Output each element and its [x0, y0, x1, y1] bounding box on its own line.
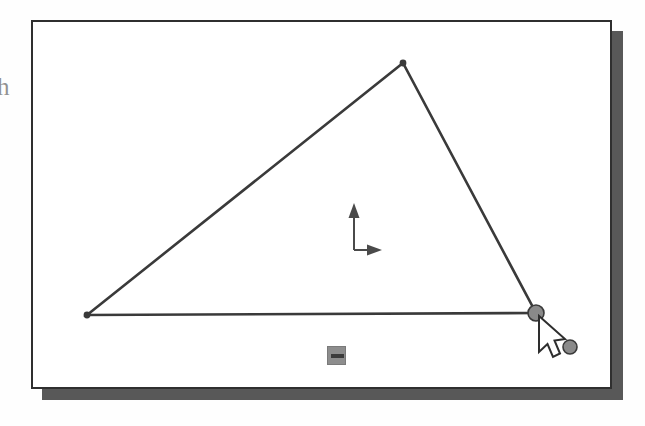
vertex-handle-left[interactable] — [84, 312, 91, 319]
vertex-handle-apex[interactable] — [400, 60, 407, 67]
figure-root: h — [0, 0, 645, 426]
drawing-area[interactable] — [33, 22, 610, 387]
loose-control-point-handle[interactable] — [563, 340, 577, 354]
arrow-cursor-icon — [539, 316, 565, 357]
canvas-vector-layer — [33, 22, 610, 387]
mouse-pointer-cursor — [539, 316, 565, 357]
constraint-marker[interactable] — [327, 346, 346, 365]
drawing-canvas-window[interactable] — [31, 20, 612, 389]
constraint-marker-bar-icon — [331, 354, 344, 358]
triangle-shape[interactable] — [87, 63, 536, 315]
y-axis-arrowhead-icon — [349, 203, 360, 218]
page-margin-glyph: h — [0, 72, 11, 102]
axis-origin-gizmo — [349, 203, 383, 256]
triangle-outline[interactable] — [87, 63, 536, 315]
x-axis-arrowhead-icon — [367, 245, 382, 256]
